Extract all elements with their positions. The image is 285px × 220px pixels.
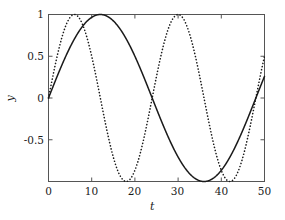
xtick-label-20: 20	[119, 186, 150, 197]
xtick-label-0: 0	[33, 186, 64, 197]
chart-figure: 1 0.5 0 -0.5 0 10 20 30 40 50 t y	[0, 0, 285, 220]
ytick-label-neg0.5: -0.5	[6, 135, 44, 146]
axes-frame	[49, 15, 265, 182]
x-axis-title: t	[150, 201, 154, 212]
ytick-label-1: 1	[6, 9, 44, 20]
xtick-label-10: 10	[76, 186, 107, 197]
xtick-label-40: 40	[206, 186, 237, 197]
ytick-label-0.5: 0.5	[6, 51, 44, 62]
y-axis-title: y	[5, 93, 16, 105]
xtick-label-50: 50	[249, 186, 280, 197]
xtick-label-30: 30	[162, 186, 193, 197]
